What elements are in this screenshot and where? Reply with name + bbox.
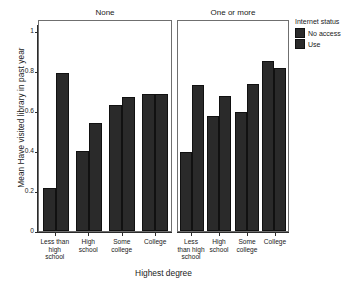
bar-use[interactable] (122, 97, 135, 231)
bar-group (207, 25, 231, 231)
legend-title: Internet status (295, 18, 357, 25)
x-axis-tick-mark (55, 232, 56, 236)
x-axis-tick-mark (219, 232, 220, 236)
x-axis-tick-label: Some college (107, 238, 137, 253)
x-axis-tick-mark (275, 232, 276, 236)
x-axis-tick-label: High school (205, 238, 233, 253)
x-axis-labels-none: Less than high schoolHigh schoolSome col… (38, 238, 172, 261)
x-axis-tick-mark (88, 232, 89, 236)
x-axis-tick-mark (122, 232, 123, 236)
bar-no-access[interactable] (109, 105, 122, 231)
chart-container: Mean Have visited library in past year 0… (0, 0, 357, 291)
x-axis-tick-label: College (261, 238, 289, 246)
x-axis-ticks-one-or-more (177, 232, 289, 236)
x-axis-tick-label: High school (73, 238, 103, 253)
bar-use[interactable] (274, 68, 286, 231)
bar-no-access[interactable] (43, 188, 56, 231)
legend-item-no-access[interactable]: No access (295, 28, 357, 38)
bar-use[interactable] (89, 123, 102, 231)
legend: Internet status No access Use (295, 18, 357, 50)
y-axis-tick-label: 0.8 (25, 67, 34, 74)
bar-group (235, 25, 259, 231)
panel-one-or-more (177, 20, 289, 232)
bar-groups-none (39, 25, 171, 231)
x-axis-title: Highest degree (38, 268, 289, 278)
x-axis-tick-label: College (140, 238, 170, 246)
legend-swatch-icon (295, 39, 305, 49)
x-axis-tick-label: Some college (233, 238, 261, 253)
panel-title-none: None (38, 8, 172, 17)
legend-item-label: Use (308, 41, 320, 48)
bar-group (180, 25, 204, 231)
bar-no-access[interactable] (235, 112, 247, 231)
bar-no-access[interactable] (76, 151, 89, 231)
plot-area-none (39, 25, 171, 231)
panel-none (38, 20, 172, 232)
panel-title-one-or-more: One or more (177, 8, 289, 17)
y-axis-tick-label: 0 (30, 227, 34, 234)
bar-use[interactable] (155, 94, 168, 231)
bar-no-access[interactable] (207, 116, 219, 231)
bar-use[interactable] (219, 96, 231, 231)
bar-no-access[interactable] (262, 61, 274, 231)
x-axis-tick-mark (247, 232, 248, 236)
bar-no-access[interactable] (180, 152, 192, 231)
legend-item-label: No access (308, 30, 341, 37)
y-axis-tick-label: 0.6 (25, 107, 34, 114)
bar-group (262, 25, 286, 231)
bar-group (43, 25, 69, 231)
x-axis-tick-mark (155, 232, 156, 236)
x-axis-ticks-none (38, 232, 172, 236)
bar-no-access[interactable] (142, 94, 155, 231)
y-axis: 00.20.40.60.81 (20, 25, 38, 233)
bar-group (109, 25, 135, 231)
y-axis-tick-label: 0.4 (25, 147, 34, 154)
bar-use[interactable] (56, 73, 69, 231)
bar-group (76, 25, 102, 231)
plot-area-one-or-more (178, 25, 288, 231)
bar-groups-one-or-more (178, 25, 288, 231)
bar-group (142, 25, 168, 231)
x-axis-tick-label: Less than high school (177, 238, 205, 261)
legend-swatch-icon (295, 28, 305, 38)
y-axis-tick-label: 0.2 (25, 187, 34, 194)
x-axis-labels-one-or-more: Less than high schoolHigh schoolSome col… (177, 238, 289, 261)
bar-use[interactable] (192, 85, 204, 231)
x-axis-tick-mark (191, 232, 192, 236)
x-axis-tick-label: Less than high school (40, 238, 70, 261)
y-axis-tick-label: 1 (30, 27, 34, 34)
bar-use[interactable] (247, 84, 259, 231)
legend-item-use[interactable]: Use (295, 39, 357, 49)
